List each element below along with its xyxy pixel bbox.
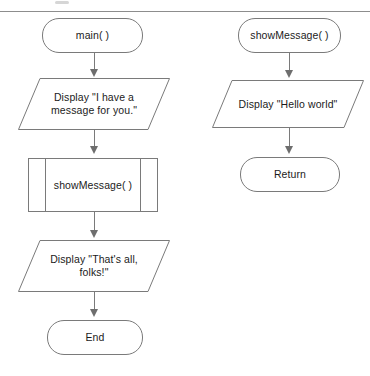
node-display-message[interactable]: Display "I have a message for you." xyxy=(18,78,170,130)
node-display-message-label: Display "I have a message for you." xyxy=(18,78,170,130)
node-display-thats-all[interactable]: Display "That's all, folks!" xyxy=(18,240,170,292)
arrowhead-down-icon xyxy=(285,146,293,154)
node-call-showmessage-label: showMessage( ) xyxy=(29,159,157,211)
arrowhead-down-icon xyxy=(90,230,98,238)
arrowhead-down-icon xyxy=(285,70,293,78)
node-display-hello[interactable]: Display "Hello world" xyxy=(212,80,364,128)
node-showmessage-start[interactable]: showMessage( ) xyxy=(238,18,341,53)
arrowhead-down-icon xyxy=(90,69,98,77)
node-main-end-label: End xyxy=(48,321,142,354)
connector-call-to-display-thats-all xyxy=(94,212,95,232)
scan-artifact xyxy=(55,1,69,4)
node-showmessage-return[interactable]: Return xyxy=(240,157,340,192)
node-main-end[interactable]: End xyxy=(47,320,143,355)
arrowhead-down-icon xyxy=(90,309,98,317)
flowchart-canvas: main( ) Display "I have a message for yo… xyxy=(0,0,370,376)
page-top-rule xyxy=(0,11,370,12)
node-display-thats-all-label: Display "That's all, folks!" xyxy=(18,240,170,292)
connector-display-hello-to-return xyxy=(289,128,290,148)
node-showmessage-start-label: showMessage( ) xyxy=(239,19,340,52)
node-main-start[interactable]: main( ) xyxy=(42,18,143,53)
arrowhead-down-icon xyxy=(90,146,98,154)
node-call-showmessage[interactable]: showMessage( ) xyxy=(28,158,158,212)
node-main-start-label: main( ) xyxy=(43,19,142,52)
node-showmessage-return-label: Return xyxy=(241,158,339,191)
node-display-hello-label: Display "Hello world" xyxy=(212,80,364,128)
